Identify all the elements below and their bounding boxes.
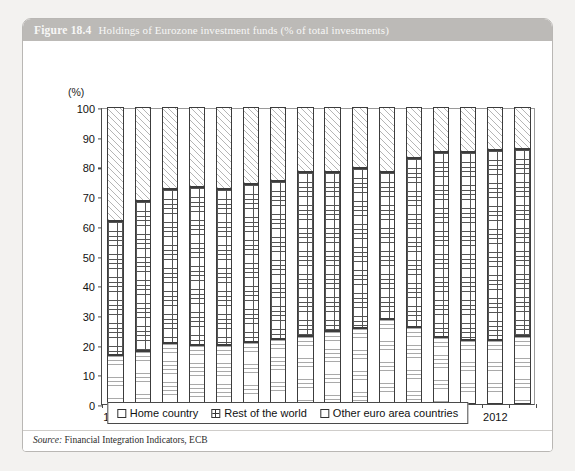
bar-segment-rest-of-the-world-2006 xyxy=(324,172,340,331)
plot-frame: 0102030405060708090100199820002002200420… xyxy=(101,108,535,405)
y-axis-tick-mark xyxy=(98,108,102,109)
bar-segment-rest-of-the-world-2009 xyxy=(406,158,422,327)
bar-2007 xyxy=(352,107,368,404)
bar-segment-rest-of-the-world-2002 xyxy=(216,189,232,345)
y-axis-tick-label: 10 xyxy=(83,370,95,382)
bar-2004 xyxy=(270,107,286,404)
bar-segment-other-euro-area-countries-2009 xyxy=(406,107,422,157)
bar-2008 xyxy=(379,107,395,404)
x-axis-tick-mark xyxy=(102,404,103,408)
bar-2011 xyxy=(460,107,476,404)
legend-label-home-country: Home country xyxy=(130,407,198,419)
bar-segment-rest-of-the-world-2011 xyxy=(460,152,476,341)
x-axis-tick-mark xyxy=(509,404,510,408)
y-axis-tick-mark xyxy=(98,346,102,347)
legend-swatch-other-euro-area-countries-icon xyxy=(320,409,329,418)
legend-label-rest-of-the-world: Rest of the world xyxy=(224,407,307,419)
bar-2005 xyxy=(297,107,313,404)
bar-2013 xyxy=(514,107,530,404)
bar-segment-home-country-2004 xyxy=(270,339,286,404)
bar-segment-other-euro-area-countries-2012 xyxy=(487,107,503,150)
y-axis-tick-mark xyxy=(98,316,102,317)
bar-segment-home-country-2001 xyxy=(189,345,205,404)
bar-segment-other-euro-area-countries-2003 xyxy=(243,107,259,184)
legend-item-other-euro-area-countries: Other euro area countries xyxy=(320,407,458,419)
figure-card: Figure 18.4 Holdings of Eurozone investm… xyxy=(22,18,553,452)
figure-source: Source: Financial Integration Indicators… xyxy=(33,435,208,445)
y-axis-tick-mark xyxy=(98,227,102,228)
bar-segment-rest-of-the-world-2001 xyxy=(189,187,205,344)
bar-segment-other-euro-area-countries-1999 xyxy=(135,107,151,201)
bar-segment-other-euro-area-countries-2006 xyxy=(324,107,340,172)
bar-segment-rest-of-the-world-2004 xyxy=(270,181,286,338)
bar-segment-home-country-2003 xyxy=(243,342,259,404)
y-axis-tick-label: 40 xyxy=(83,281,95,293)
bar-segment-other-euro-area-countries-2002 xyxy=(216,107,232,189)
bar-segment-rest-of-the-world-2007 xyxy=(352,168,368,328)
bar-1998 xyxy=(107,107,123,404)
y-axis-tick-label: 30 xyxy=(83,311,95,323)
bar-segment-other-euro-area-countries-2011 xyxy=(460,107,476,152)
legend-swatch-home-country-icon xyxy=(117,409,126,418)
bar-segment-home-country-1998 xyxy=(107,355,123,404)
bar-segment-rest-of-the-world-2010 xyxy=(433,152,449,338)
bar-segment-home-country-2002 xyxy=(216,345,232,404)
bar-segment-home-country-1999 xyxy=(135,351,151,404)
bar-segment-rest-of-the-world-2008 xyxy=(379,172,395,319)
bar-2010 xyxy=(433,107,449,404)
bar-segment-home-country-2000 xyxy=(162,343,178,404)
x-axis-tick-mark xyxy=(536,404,537,408)
bar-segment-other-euro-area-countries-2008 xyxy=(379,107,395,172)
figure-titlebar: Figure 18.4 Holdings of Eurozone investm… xyxy=(23,19,552,41)
y-axis-tick-mark xyxy=(98,138,102,139)
bar-segment-home-country-2011 xyxy=(460,340,476,404)
bar-segment-home-country-2010 xyxy=(433,337,449,404)
y-axis-tick-label: 70 xyxy=(83,192,95,204)
bar-2000 xyxy=(162,107,178,404)
bar-segment-other-euro-area-countries-2001 xyxy=(189,107,205,187)
bar-segment-other-euro-area-countries-2004 xyxy=(270,107,286,181)
x-axis-tick-mark xyxy=(482,404,483,408)
bar-segment-other-euro-area-countries-2000 xyxy=(162,107,178,189)
source-text: Financial Integration Indicators, ECB xyxy=(65,435,208,445)
bar-segment-home-country-2007 xyxy=(352,328,368,404)
bar-1999 xyxy=(135,107,151,404)
bar-segment-home-country-2006 xyxy=(324,331,340,404)
bar-segment-rest-of-the-world-1998 xyxy=(107,221,123,355)
y-axis-tick-label: 90 xyxy=(83,133,95,145)
bar-segment-other-euro-area-countries-2013 xyxy=(514,107,530,149)
bar-segment-other-euro-area-countries-2007 xyxy=(352,107,368,168)
bar-segment-rest-of-the-world-2003 xyxy=(243,184,259,341)
y-axis-tick-mark xyxy=(98,198,102,199)
legend-label-other-euro-area-countries: Other euro area countries xyxy=(333,407,458,419)
y-axis-tick-label: 80 xyxy=(83,162,95,174)
legend-item-home-country: Home country xyxy=(117,407,198,419)
legend-item-rest-of-the-world: Rest of the world xyxy=(211,407,307,419)
bar-segment-home-country-2013 xyxy=(514,336,530,404)
y-axis-tick-label: 60 xyxy=(83,222,95,234)
y-axis-tick-mark xyxy=(98,168,102,169)
y-axis-tick-label: 50 xyxy=(83,252,95,264)
bar-segment-rest-of-the-world-2013 xyxy=(514,149,530,336)
y-axis-tick-mark xyxy=(98,376,102,377)
bar-segment-other-euro-area-countries-2005 xyxy=(297,107,313,172)
bar-segment-other-euro-area-countries-2010 xyxy=(433,107,449,152)
bar-2001 xyxy=(189,107,205,404)
source-label: Source: xyxy=(33,435,62,445)
chart-plot-area: (%) 010203040506070809010019982000200220… xyxy=(23,41,552,430)
y-axis-tick-label: 20 xyxy=(83,341,95,353)
bar-segment-rest-of-the-world-2012 xyxy=(487,150,503,340)
chart-legend: Home country Rest of the world Other eur… xyxy=(107,402,468,424)
figure-title: Holdings of Eurozone investment funds (%… xyxy=(99,24,389,36)
bar-segment-rest-of-the-world-2005 xyxy=(297,172,313,335)
bar-2006 xyxy=(324,107,340,404)
bar-segment-home-country-2008 xyxy=(379,319,395,404)
bar-segment-rest-of-the-world-2000 xyxy=(162,189,178,343)
y-axis-tick-label: 0 xyxy=(89,400,95,412)
x-axis-tick-label-2012: 2012 xyxy=(483,411,507,423)
y-axis-tick-mark xyxy=(98,257,102,258)
figure-footer: Source: Financial Integration Indicators… xyxy=(23,430,552,452)
bar-segment-other-euro-area-countries-1998 xyxy=(107,107,123,221)
bar-segment-home-country-2009 xyxy=(406,327,422,404)
figure-body: (%) 010203040506070809010019982000200220… xyxy=(23,41,552,430)
